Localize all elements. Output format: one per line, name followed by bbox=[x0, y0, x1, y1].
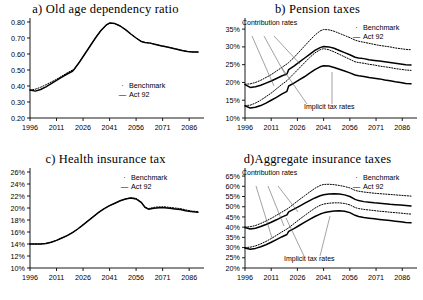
x-axis-tick-label: 2026 bbox=[289, 123, 305, 132]
panel-title: c) Health insurance tax bbox=[0, 152, 211, 167]
annotation-leader-line bbox=[256, 186, 272, 238]
series-line bbox=[245, 203, 411, 248]
series-line bbox=[30, 198, 198, 244]
x-axis-tick-label: 2056 bbox=[128, 123, 144, 132]
legend: ·Benchmark—Act 92 bbox=[352, 174, 399, 191]
y-axis-tick-label: 0.50 bbox=[11, 66, 25, 75]
annotation-leader-line bbox=[264, 36, 286, 76]
series-line bbox=[30, 23, 198, 90]
chart-annotation: Implicit tax rates bbox=[284, 255, 335, 262]
y-axis-tick-label: 10% bbox=[11, 264, 26, 273]
x-axis-tick-label: 1996 bbox=[22, 273, 38, 282]
y-axis-tick-label: 0.40 bbox=[11, 82, 25, 91]
annotation-leader-line bbox=[278, 186, 298, 212]
panel-a: a) Old age dependency ratio0.200.300.400… bbox=[0, 0, 211, 150]
x-axis-tick-label: 2041 bbox=[102, 273, 118, 282]
y-axis-tick-label: 0.70 bbox=[11, 34, 25, 43]
solid-line-icon: — bbox=[352, 183, 361, 191]
panel-d: d)Aggregate insurance taxes20%25%30%35%4… bbox=[212, 150, 423, 300]
legend-item: —Act 92 bbox=[118, 91, 165, 100]
y-axis-tick-label: 26% bbox=[11, 168, 26, 177]
x-axis-tick-label: 2026 bbox=[289, 273, 305, 282]
series-line bbox=[30, 198, 198, 244]
x-axis-tick-label: 2041 bbox=[316, 123, 332, 132]
x-axis-tick-label: 2086 bbox=[181, 123, 197, 132]
legend-label: Act 92 bbox=[131, 183, 151, 192]
y-axis-tick-label: 60% bbox=[226, 182, 241, 191]
y-axis-tick-label: 30% bbox=[226, 243, 241, 252]
y-axis-tick-label: 0.80 bbox=[11, 18, 25, 27]
x-axis-tick-label: 2086 bbox=[181, 273, 197, 282]
legend: ·Benchmark—Act 92 bbox=[118, 82, 165, 99]
y-axis-tick-label: 25% bbox=[226, 60, 241, 69]
legend-item: —Act 92 bbox=[352, 183, 399, 192]
panel-c: c) Health insurance tax10%12%14%16%18%20… bbox=[0, 150, 211, 300]
x-axis-tick-label: 2011 bbox=[263, 273, 278, 282]
legend-label: Act 92 bbox=[363, 183, 383, 192]
x-axis-tick-label: 1996 bbox=[237, 123, 253, 132]
legend: ·Benchmark—Act 92 bbox=[352, 24, 399, 41]
y-axis-tick-label: 14% bbox=[11, 240, 26, 249]
y-axis-tick-label: 55% bbox=[226, 192, 241, 201]
y-axis-tick-label: 0.30 bbox=[11, 98, 25, 107]
x-axis-tick-label: 2086 bbox=[394, 273, 410, 282]
annotation-leader-line bbox=[320, 216, 330, 256]
plot-area: 0.200.300.400.500.600.700.80199620112026… bbox=[0, 0, 211, 150]
chart-annotation: Contribution rates bbox=[242, 169, 297, 176]
legend-label: Act 92 bbox=[363, 33, 383, 42]
legend-item: —Act 92 bbox=[120, 183, 167, 192]
annotation-leader-line bbox=[274, 36, 300, 64]
y-axis-tick-label: 20% bbox=[226, 78, 241, 87]
x-axis-tick-label: 2011 bbox=[49, 273, 64, 282]
legend: ·Benchmark—Act 92 bbox=[120, 174, 167, 191]
legend-label: Act 92 bbox=[129, 91, 149, 100]
series-line bbox=[245, 66, 411, 108]
x-axis-tick-label: 1996 bbox=[22, 123, 38, 132]
x-axis-tick-label: 2041 bbox=[102, 123, 118, 132]
x-axis-tick-label: 2071 bbox=[368, 273, 384, 282]
x-axis-tick-label: 2071 bbox=[155, 273, 171, 282]
series-line bbox=[30, 23, 198, 91]
y-axis-tick-label: 65% bbox=[226, 172, 241, 181]
plot-area: 10%12%14%16%18%20%22%24%26%1996201120262… bbox=[0, 150, 211, 300]
y-axis-tick-label: 18% bbox=[11, 216, 26, 225]
x-axis-tick-label: 2026 bbox=[75, 123, 91, 132]
solid-line-icon: — bbox=[352, 33, 361, 41]
panel-title: d)Aggregate insurance taxes bbox=[212, 152, 423, 167]
y-axis-tick-label: 20% bbox=[11, 204, 26, 213]
y-axis-tick-label: 0.20 bbox=[11, 114, 25, 123]
y-axis-tick-label: 15% bbox=[226, 96, 241, 105]
y-axis-tick-label: 35% bbox=[226, 233, 241, 242]
figure-four-panel-chart: a) Old age dependency ratio0.200.300.400… bbox=[0, 0, 423, 300]
y-axis-tick-label: 20% bbox=[226, 264, 241, 273]
legend-item: —Act 92 bbox=[352, 33, 399, 42]
panel-title: a) Old age dependency ratio bbox=[0, 2, 211, 17]
y-axis-tick-label: 22% bbox=[11, 192, 26, 201]
x-axis-tick-label: 2011 bbox=[263, 123, 278, 132]
x-axis-tick-label: 1996 bbox=[237, 273, 253, 282]
solid-line-icon: — bbox=[120, 183, 129, 191]
annotation-leader-line bbox=[252, 36, 274, 86]
chart-annotation: Implicit tax rates bbox=[304, 103, 355, 110]
y-axis-tick-label: 30% bbox=[226, 42, 241, 51]
panel-title: b) Pension taxes bbox=[212, 2, 423, 17]
x-axis-tick-label: 2086 bbox=[394, 123, 410, 132]
x-axis-tick-label: 2056 bbox=[342, 123, 358, 132]
x-axis-tick-label: 2011 bbox=[49, 123, 64, 132]
y-axis-tick-label: 10% bbox=[226, 114, 241, 123]
x-axis-tick-label: 2056 bbox=[342, 273, 358, 282]
y-axis-tick-label: 40% bbox=[226, 223, 241, 232]
x-axis-tick-label: 2041 bbox=[316, 273, 332, 282]
x-axis-tick-label: 2026 bbox=[75, 273, 91, 282]
series-line bbox=[245, 211, 411, 249]
y-axis-tick-label: 24% bbox=[11, 180, 26, 189]
solid-line-icon: — bbox=[118, 91, 127, 99]
x-axis-tick-label: 2056 bbox=[128, 273, 144, 282]
y-axis-tick-label: 25% bbox=[226, 253, 241, 262]
x-axis-tick-label: 2071 bbox=[155, 123, 171, 132]
y-axis-tick-label: 12% bbox=[11, 252, 26, 261]
chart-annotation: Contribution rates bbox=[242, 19, 297, 26]
y-axis-tick-label: 45% bbox=[226, 213, 241, 222]
panel-b: b) Pension taxes10%15%20%25%30%35%199620… bbox=[212, 0, 423, 150]
y-axis-tick-label: 50% bbox=[226, 202, 241, 211]
